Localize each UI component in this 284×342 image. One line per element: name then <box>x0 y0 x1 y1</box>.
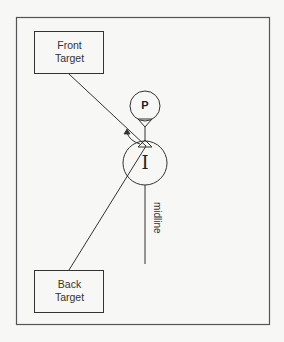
front-target-line1: Front <box>35 39 104 52</box>
p-circle-label: P <box>135 99 155 111</box>
front-target-line2: Target <box>35 52 104 65</box>
back-target-line1: Back <box>35 278 104 291</box>
midline-label: midline <box>152 202 163 234</box>
back-target-label: Back Target <box>35 278 104 304</box>
front-target-label: Front Target <box>35 39 104 65</box>
i-circle-label: I <box>135 152 155 173</box>
back-target-line2: Target <box>35 291 104 304</box>
